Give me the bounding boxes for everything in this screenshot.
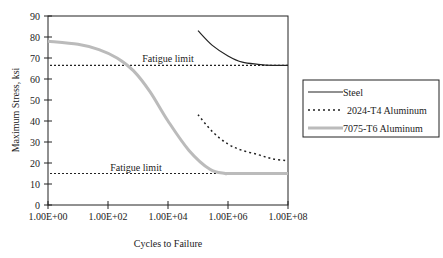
y-tick-label: 70: [30, 53, 40, 64]
y-tick-label: 20: [30, 158, 40, 169]
y-tick-label: 30: [30, 137, 40, 148]
series-steel: [198, 31, 288, 66]
x-tick-label: 1.00E+02: [88, 211, 127, 222]
y-tick-label: 0: [35, 200, 40, 211]
legend-item-label: 7075-T6 Aluminum: [343, 123, 423, 134]
y-tick-label: 50: [30, 95, 40, 106]
x-tick-label: 1.00E+08: [268, 211, 307, 222]
x-tick-label: 1.00E+04: [148, 211, 187, 222]
fatigue-limit-label: Fatigue limit: [142, 53, 194, 64]
x-tick-label: 1.00E+06: [208, 211, 247, 222]
sn-curve-chart: Fatigue limitFatigue limit 0102030405060…: [0, 0, 443, 258]
plot-area: Fatigue limitFatigue limit: [48, 16, 288, 205]
y-axis-title: Maximum Stress, ksi: [10, 67, 21, 152]
y-tick-label: 10: [30, 179, 40, 190]
fatigue-limit-label: Fatigue limit: [110, 162, 162, 173]
y-tick-label: 40: [30, 116, 40, 127]
y-tick-label: 90: [30, 11, 40, 22]
y-tick-label: 60: [30, 74, 40, 85]
legend-item-label: Steel: [343, 87, 363, 98]
x-tick-label: 1.00E+00: [28, 211, 67, 222]
y-tick-label: 80: [30, 32, 40, 43]
legend: Steel2024-T4 Aluminum7075-T6 Aluminum: [303, 80, 439, 137]
series-2024-t4-aluminum: [198, 115, 288, 161]
legend-item-label: 2024-T4 Aluminum: [347, 105, 427, 116]
x-axis-title: Cycles to Failure: [134, 238, 203, 249]
x-axis: 1.00E+001.00E+021.00E+041.00E+061.00E+08: [28, 201, 307, 222]
